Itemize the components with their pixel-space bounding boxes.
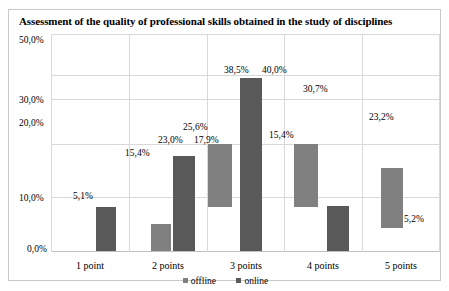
data-label-2points-offline: 15,4%	[125, 148, 150, 159]
bar-1point-online[interactable]	[96, 207, 116, 251]
gridline-50	[51, 34, 440, 35]
y-axis-tick-10: 10,0%	[19, 193, 44, 203]
y-axis-tick-20: 20,0%	[19, 118, 44, 128]
legend-label-online: online	[244, 276, 268, 286]
data-label-extra-17-9: 17,9%	[194, 135, 219, 146]
data-label-1point-online: 5,1%	[73, 191, 93, 202]
bar-2points-online[interactable]	[173, 156, 195, 251]
data-label-3points-offline: 25,6%	[183, 122, 208, 133]
x-axis-label-4points: 4 points	[284, 260, 362, 272]
plot-area: 5,1% 15,4% 23,0% 17,9% 25,6% 38,5% 40,0%…	[51, 34, 440, 252]
bar-2points-offline[interactable]	[151, 224, 171, 251]
data-label-extra-40-0: 40,0%	[262, 65, 287, 76]
bar-3points-offline[interactable]	[208, 144, 232, 207]
gridline-baseline	[51, 251, 440, 252]
data-label-3points-online: 38,5%	[224, 65, 249, 76]
bar-4points-online[interactable]	[327, 206, 349, 251]
vgrid-1	[129, 34, 130, 252]
bar-3points-online[interactable]	[240, 78, 262, 251]
vgrid-4	[362, 34, 363, 252]
y-axis-tick-0: 0,0%	[27, 244, 47, 254]
legend-item-offline[interactable]: offline	[183, 276, 216, 287]
legend-swatch-offline-icon	[183, 278, 188, 283]
y-axis-tick-30: 30,0%	[19, 95, 44, 105]
legend-item-online[interactable]: online	[236, 276, 268, 287]
x-axis-label-3points: 3 points	[207, 260, 285, 272]
x-axis-label-5points: 5 points	[362, 260, 440, 272]
bar-4points-offline[interactable]	[294, 144, 318, 207]
data-label-5points-offline: 23,2%	[369, 112, 394, 123]
data-label-extra-30-7: 30,7%	[303, 84, 328, 95]
legend-label-offline: offline	[191, 276, 216, 286]
vgrid-left	[51, 34, 52, 252]
x-axis-label-2points: 2 points	[129, 260, 207, 272]
data-label-2points-online: 23,0%	[158, 135, 183, 146]
data-label-5points-online: 5,2%	[404, 214, 424, 225]
y-axis-tick-50: 50,0%	[19, 35, 44, 45]
chart-legend: offline online	[9, 276, 442, 287]
vgrid-right	[439, 34, 440, 252]
chart-container[interactable]: Assessment of the quality of professiona…	[8, 9, 441, 281]
chart-title: Assessment of the quality of professiona…	[19, 15, 439, 28]
x-axis-label-1point: 1 point	[51, 260, 129, 272]
data-label-4points-offline: 15,4%	[269, 130, 294, 141]
legend-swatch-online-icon	[236, 278, 241, 283]
bar-5points-offline[interactable]	[381, 168, 403, 228]
